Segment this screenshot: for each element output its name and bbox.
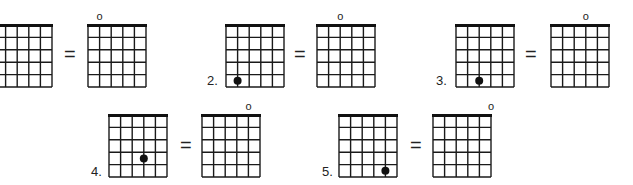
open-string-diagram — [87, 24, 145, 86]
open-string-diagram — [432, 114, 490, 176]
problem-number: 4. — [91, 165, 102, 178]
open-string-marker: o — [97, 11, 103, 22]
problem-number: 2. — [207, 74, 218, 87]
equals-sign: = — [180, 135, 192, 155]
open-string-marker: o — [583, 11, 589, 22]
finger-dot-icon — [381, 167, 389, 175]
equals-sign: = — [64, 44, 76, 64]
open-string-diagram — [550, 24, 608, 86]
problem-number: 3. — [436, 74, 447, 87]
finger-dot-icon — [140, 154, 148, 162]
finger-dot-icon — [234, 77, 242, 85]
open-string-marker: o — [337, 11, 343, 22]
equals-sign: = — [410, 135, 422, 155]
finger-dot-icon — [475, 77, 483, 85]
open-string-marker: o — [245, 101, 251, 112]
equals-sign: = — [294, 44, 306, 64]
fretted-chord-diagram — [0, 24, 51, 86]
equals-sign: = — [525, 44, 537, 64]
open-string-diagram — [201, 114, 259, 176]
fretted-chord-diagram — [455, 24, 513, 86]
problem-number: 5. — [322, 165, 333, 178]
open-string-diagram — [316, 24, 374, 86]
open-string-marker: o — [488, 101, 494, 112]
fretted-chord-diagram — [225, 24, 283, 86]
fretted-chord-diagram — [338, 114, 396, 176]
fretted-chord-diagram — [108, 114, 166, 176]
